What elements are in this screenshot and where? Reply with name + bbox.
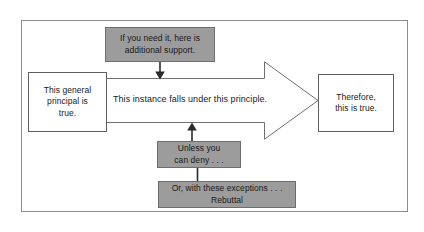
conclusion-line-2: this is true.	[319, 103, 393, 114]
rebuttal-exceptions-line-1: Or, with these exceptions . . .	[159, 183, 295, 194]
arrow-down-icon	[151, 61, 169, 80]
warrant-support-line-2: additional support.	[106, 45, 214, 56]
conclusion-box[interactable]: Therefore, this is true.	[318, 74, 394, 132]
arrow-up-icon	[183, 119, 201, 143]
conclusion-line-1: Therefore,	[319, 92, 393, 103]
warrant-support-box[interactable]: If you need it, here is additional suppo…	[105, 27, 215, 62]
general-principle-line-1: This general	[29, 85, 106, 96]
general-principle-line-3: true.	[29, 108, 106, 119]
rebuttal-exceptions-box[interactable]: Or, with these exceptions . . . Rebuttal	[158, 181, 296, 208]
diagram-canvas: This instance falls under this principle…	[0, 0, 424, 232]
rebuttal-unless-text: Unless you can deny . . .	[158, 143, 240, 165]
warrant-support-line-1: If you need it, here is	[106, 33, 214, 44]
rebuttal-unless-line-1: Unless you	[158, 143, 240, 154]
bridge-statement-label: This instance falls under this principle…	[105, 89, 305, 111]
warrant-support-text: If you need it, here is additional suppo…	[106, 33, 214, 55]
rebuttal-unless-box[interactable]: Unless you can deny . . .	[157, 141, 241, 168]
general-principle-line-2: principal is	[29, 96, 106, 107]
general-principle-box[interactable]: This general principal is true.	[28, 72, 107, 132]
rebuttal-unless-line-2: can deny . . .	[158, 155, 240, 166]
rebuttal-exceptions-text: Or, with these exceptions . . . Rebuttal	[159, 183, 295, 205]
connector-line	[196, 167, 199, 182]
rebuttal-exceptions-line-2: Rebuttal	[159, 195, 295, 206]
general-principle-text: This general principal is true.	[29, 85, 106, 119]
diagram-frame: This instance falls under this principle…	[21, 20, 408, 212]
conclusion-text: Therefore, this is true.	[319, 92, 393, 114]
